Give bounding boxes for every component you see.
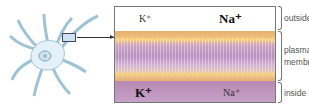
label-inside: inside: [284, 88, 306, 98]
magnified-region-marker: [62, 33, 76, 42]
label-plasma: plasma: [284, 45, 309, 55]
lipid-tails: [115, 39, 275, 73]
ion-k-outside: K⁺: [139, 13, 151, 24]
ion-na-outside: Na⁺: [219, 11, 242, 27]
lipid-bilayer: [115, 31, 275, 81]
magnify-arrow: [77, 37, 114, 38]
label-membrane: membrane: [284, 57, 309, 67]
neuron-illustration: [0, 0, 115, 111]
outside-brace: [278, 6, 282, 30]
membrane-panel: K⁺ Na⁺ K⁺ Na⁺: [114, 6, 276, 103]
inner-lipid-heads: [115, 72, 275, 77]
membrane-brace: [278, 31, 282, 81]
ion-na-inside: Na⁺: [223, 87, 240, 98]
label-outside: outside: [284, 13, 309, 23]
extracellular-region: K⁺ Na⁺: [115, 7, 275, 31]
intracellular-region: K⁺ Na⁺: [115, 81, 275, 103]
ion-k-inside: K⁺: [135, 85, 152, 101]
inside-brace: [278, 82, 282, 103]
